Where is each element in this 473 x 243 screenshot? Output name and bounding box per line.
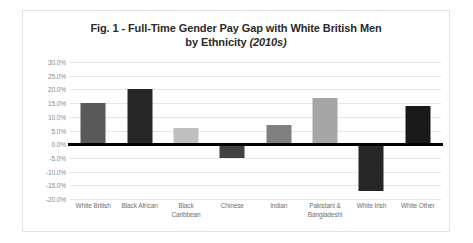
gridline [70,199,441,200]
bar-slot [256,62,302,199]
bar[interactable] [81,103,106,144]
chart-title-year: (2010s) [249,36,286,48]
bar[interactable] [359,144,384,191]
y-axis-tick-label: 15.0% [48,100,66,107]
bar[interactable] [405,106,430,144]
y-axis-tick-label: 20.0% [48,86,66,93]
chart-title-line-2: by Ethnicity [185,36,249,48]
bar-slot [395,62,441,199]
bar[interactable] [127,89,152,144]
bar-slot [70,62,116,199]
bar-series [70,62,441,199]
bar-slot [209,62,255,199]
y-axis-tick-label: 30.0% [48,59,66,66]
bar[interactable] [266,125,291,144]
y-axis-tick-label: 10.0% [48,113,66,120]
bar[interactable] [173,128,198,144]
bar[interactable] [220,144,245,158]
chart-title-line-1: Fig. 1 - Full-Time Gender Pay Gap with W… [90,22,381,34]
y-axis-tick-label: 0.0% [52,141,66,148]
y-axis-tick-label: -15.0% [46,182,66,189]
x-axis-category-label: White Other [391,202,445,211]
chart-title: Fig. 1 - Full-Time Gender Pay Gap with W… [23,21,449,49]
y-axis-tick-label: -20.0% [46,196,66,203]
bar-slot [116,62,162,199]
bar[interactable] [313,98,338,145]
bar-slot [348,62,394,199]
bar-slot [302,62,348,199]
y-axis-tick-label: -5.0% [50,154,66,161]
y-axis-tick-label: 5.0% [52,127,66,134]
bar-slot [163,62,209,199]
zero-axis-line [68,143,443,146]
chart-container: Fig. 1 - Full-Time Gender Pay Gap with W… [22,10,450,232]
y-axis-tick-label: -10.0% [46,168,66,175]
x-axis-category-labels: White BritishBlack AfricanBlackCaribbean… [70,202,441,236]
plot-area: 30.0%25.0%20.0%15.0%10.0%5.0%0.0%-5.0%-1… [70,62,441,199]
y-axis-tick-label: 25.0% [48,72,66,79]
